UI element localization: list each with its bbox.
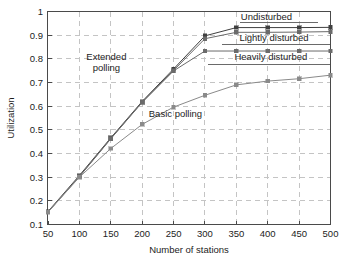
y-tick-label: 0.9 <box>30 30 43 41</box>
y-tick-label: 0.5 <box>30 124 43 135</box>
y-axis-title: Utilization <box>5 97 16 138</box>
x-tick-label: 350 <box>228 228 244 239</box>
data-point-marker <box>203 93 207 97</box>
data-point-marker <box>266 79 270 83</box>
annotation-heavily-disturbed: Heavily disturbed <box>234 51 307 62</box>
x-tick-label: 300 <box>197 228 213 239</box>
x-tick-label: 50 <box>43 228 54 239</box>
x-tick-label: 500 <box>323 228 339 239</box>
data-point-marker <box>109 147 113 151</box>
data-point-marker <box>329 73 333 77</box>
y-tick-label: 0.1 <box>30 219 43 230</box>
data-point-marker <box>203 49 207 53</box>
y-tick-label: 1 <box>38 6 43 17</box>
y-axis-tick-labels: 0.10.20.30.40.50.60.70.80.91 <box>30 6 43 230</box>
y-tick-label: 0.4 <box>30 148 43 159</box>
annotation-extended-polling: polling <box>93 62 120 73</box>
x-tick-label: 250 <box>166 228 182 239</box>
chart-annotations: ExtendedpollingBasic pollingUndisturbedL… <box>86 11 308 119</box>
data-point-marker <box>77 175 81 179</box>
x-axis-tick-labels: 50100150200250300350400450500 <box>43 228 339 239</box>
series-line-3 <box>48 75 331 212</box>
y-tick-label: 0.6 <box>30 101 43 112</box>
y-tick-label: 0.3 <box>30 172 43 183</box>
data-point-marker <box>234 30 238 34</box>
annotation-lightly-disturbed: Lightly disturbed <box>239 32 308 43</box>
x-axis-title: Number of stations <box>149 244 229 255</box>
data-point-marker <box>329 30 333 34</box>
data-point-marker <box>234 83 238 87</box>
annotation-extended-polling: Extended <box>86 51 126 62</box>
data-point-marker <box>329 49 333 53</box>
data-point-marker <box>297 77 301 81</box>
data-point-marker <box>266 26 270 30</box>
y-tick-label: 0.8 <box>30 53 43 64</box>
series-line-2 <box>48 51 331 212</box>
data-point-marker <box>203 37 207 41</box>
data-point-marker <box>109 137 113 141</box>
y-tick-label: 0.2 <box>30 195 43 206</box>
x-tick-label: 450 <box>291 228 307 239</box>
data-point-marker <box>297 26 301 30</box>
data-point-marker <box>329 25 333 29</box>
data-point-marker <box>46 210 50 214</box>
x-tick-label: 150 <box>103 228 119 239</box>
utilization-line-chart: 50100150200250300350400450500 0.10.20.30… <box>0 0 344 267</box>
data-point-marker <box>140 100 144 104</box>
y-tick-label: 0.7 <box>30 77 43 88</box>
annotation-basic-polling: Basic polling <box>149 108 202 119</box>
data-point-marker <box>140 122 144 126</box>
chart-container: 50100150200250300350400450500 0.10.20.30… <box>0 0 344 267</box>
x-tick-label: 400 <box>260 228 276 239</box>
data-point-marker <box>234 26 238 30</box>
annotation-undisturbed: Undisturbed <box>241 11 292 22</box>
x-tick-label: 100 <box>71 228 87 239</box>
data-point-marker <box>172 69 176 73</box>
x-tick-label: 200 <box>134 228 150 239</box>
